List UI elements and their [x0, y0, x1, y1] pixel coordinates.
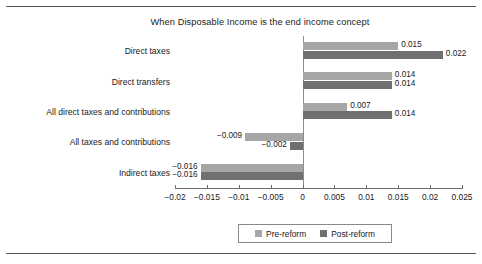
x-axis-tick-label: 0.005 — [324, 192, 345, 202]
x-axis-tick — [398, 185, 399, 189]
legend-item[interactable]: Post-reform — [320, 229, 375, 239]
legend-item[interactable]: Pre-reform — [255, 229, 306, 239]
chart-legend: Pre-reformPost-reform — [238, 224, 392, 243]
bar-value-label: 0.007 — [350, 102, 371, 110]
x-axis-line — [175, 188, 462, 189]
x-axis-tick — [303, 185, 304, 189]
legend-swatch-icon — [320, 230, 327, 237]
x-axis-tick — [430, 185, 431, 189]
bar-value-label: −0.002 — [262, 141, 287, 149]
chart-figure: When Disposable Income is the end income… — [0, 0, 482, 264]
bar-post-reform[interactable] — [290, 142, 303, 150]
bar-pre-reform[interactable] — [303, 72, 392, 80]
bar-value-label: −0.016 — [172, 171, 197, 179]
bar-value-label: 0.022 — [446, 50, 467, 58]
bar-group: −0.009−0.002 — [175, 127, 462, 157]
x-axis-tick-labels: −0.02−0.015−0.01−0.00500.0050.010.0150.0… — [175, 192, 462, 204]
bar-group: 0.0070.014 — [175, 97, 462, 127]
bar-pre-reform[interactable] — [303, 42, 399, 50]
x-axis-tick-label: −0.015 — [194, 192, 220, 202]
bar-group: 0.0150.022 — [175, 36, 462, 66]
x-axis-tick-label: 0.01 — [358, 192, 374, 202]
category-label: All direct taxes and contributions — [2, 107, 170, 117]
x-axis-tick — [239, 185, 240, 189]
plot-area: 0.0150.0220.0140.0140.0070.014−0.009−0.0… — [175, 36, 462, 188]
x-axis-tick — [334, 185, 335, 189]
bar-value-label: 0.015 — [401, 41, 422, 49]
bottom-divider-rule — [6, 253, 476, 254]
x-axis-tick-label: 0 — [300, 192, 305, 202]
category-label: Direct taxes — [2, 46, 170, 56]
category-label: Indirect taxes — [2, 168, 170, 178]
bar-value-label: 0.014 — [395, 80, 416, 88]
x-axis-tick-label: 0.02 — [422, 192, 438, 202]
x-axis-tick-label: 0.025 — [452, 192, 473, 202]
x-axis-tick — [175, 185, 176, 189]
category-label: Direct transfers — [2, 77, 170, 87]
legend-label: Pre-reform — [266, 229, 306, 239]
x-axis-tick — [366, 185, 367, 189]
x-axis-tick-label: −0.02 — [164, 192, 185, 202]
bar-value-label: 0.014 — [395, 110, 416, 118]
chart-title: When Disposable Income is the end income… — [60, 17, 460, 27]
legend-label: Post-reform — [331, 229, 375, 239]
legend-swatch-icon — [255, 230, 262, 237]
category-label: All taxes and contributions — [2, 137, 170, 147]
bar-value-label: −0.009 — [217, 132, 242, 140]
bar-post-reform[interactable] — [201, 172, 303, 180]
x-axis-tick-label: 0.015 — [388, 192, 409, 202]
bar-pre-reform[interactable] — [303, 103, 348, 111]
bar-pre-reform[interactable] — [201, 164, 303, 172]
category-axis-labels: Direct taxesDirect transfersAll direct t… — [0, 36, 170, 188]
bar-post-reform[interactable] — [303, 111, 392, 119]
bar-post-reform[interactable] — [303, 81, 392, 89]
x-axis-tick-label: −0.005 — [258, 192, 284, 202]
x-axis-tick — [207, 185, 208, 189]
x-axis-tick — [462, 185, 463, 189]
bar-group: −0.016−0.016 — [175, 158, 462, 188]
x-axis-tick — [271, 185, 272, 189]
bar-group: 0.0140.014 — [175, 66, 462, 96]
bar-post-reform[interactable] — [303, 51, 443, 59]
x-axis-tick-label: −0.01 — [228, 192, 249, 202]
top-divider-rule — [6, 6, 476, 7]
